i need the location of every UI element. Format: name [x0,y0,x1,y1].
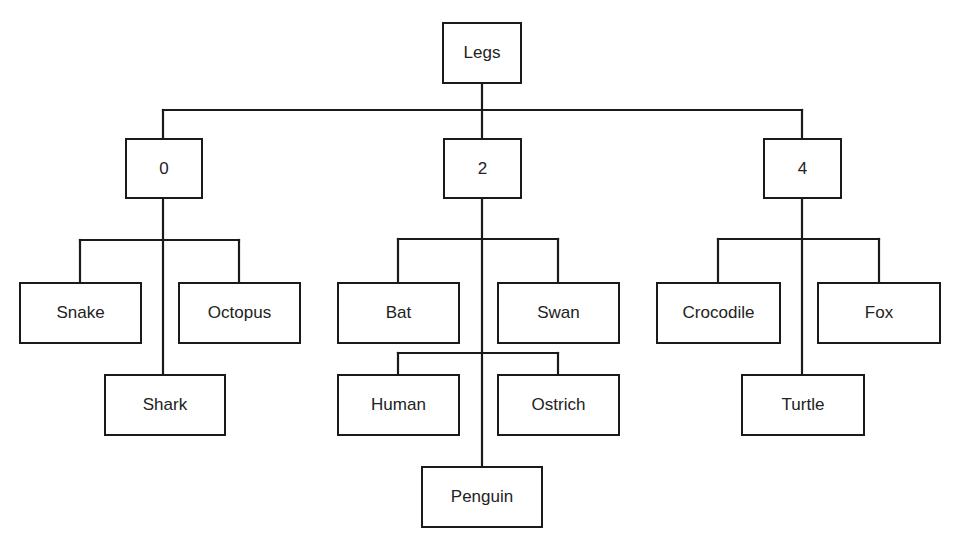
node-label: Crocodile [683,303,755,323]
node-label: Octopus [208,303,271,323]
node-turtle: Turtle [741,374,865,436]
node-label: Human [371,395,426,415]
node-snake: Snake [19,282,142,344]
node-2-legs: 2 [443,138,522,199]
node-swan: Swan [497,282,620,344]
node-octopus: Octopus [178,282,301,344]
node-bat: Bat [337,282,460,344]
node-label: Penguin [451,487,513,507]
node-label: Snake [56,303,104,323]
node-crocodile: Crocodile [656,282,781,344]
node-label: Swan [537,303,580,323]
node-label: Bat [386,303,412,323]
node-label: Legs [464,43,501,63]
node-4-legs: 4 [763,138,842,199]
node-label: Fox [865,303,893,323]
node-label: Ostrich [532,395,586,415]
node-label: 2 [478,159,487,179]
node-label: Turtle [782,395,825,415]
tree-diagram: Legs 0 2 4 Snake Octopus Shark Bat Swan … [0,0,960,542]
node-label: Shark [143,395,187,415]
node-label: 0 [159,159,168,179]
node-ostrich: Ostrich [497,374,620,436]
node-0-legs: 0 [125,138,203,199]
node-penguin: Penguin [421,466,543,528]
node-legs: Legs [442,22,522,84]
node-label: 4 [798,159,807,179]
node-human: Human [337,374,460,436]
node-shark: Shark [104,374,226,436]
node-fox: Fox [817,282,941,344]
